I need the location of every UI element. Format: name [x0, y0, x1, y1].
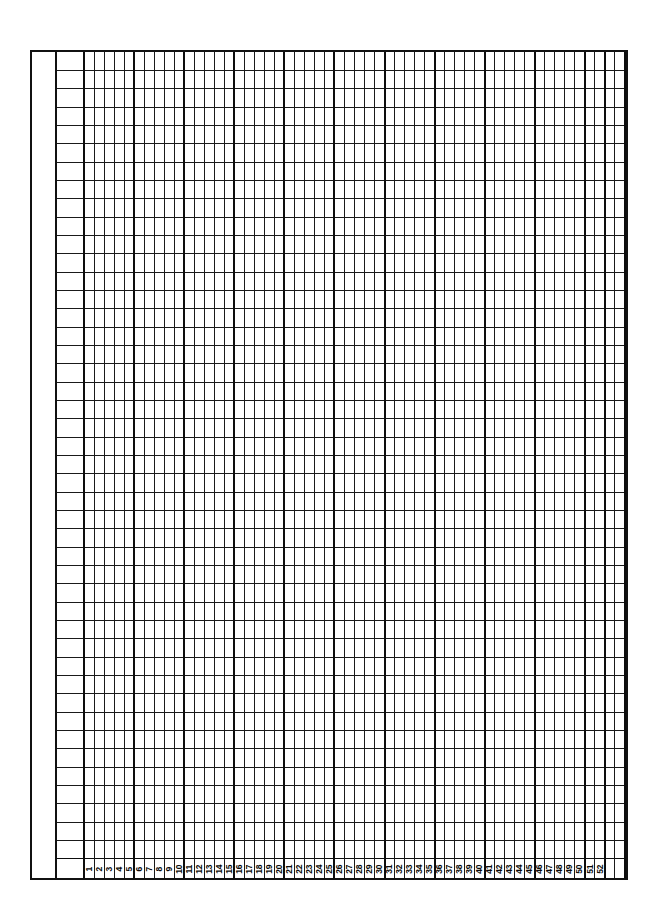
horizontal-rule [57, 418, 626, 419]
column-number-text: 10 [175, 864, 184, 873]
column-number-text: 20 [275, 864, 284, 873]
column-number-text: 4 [115, 867, 124, 871]
column-number-text: 49 [566, 864, 575, 873]
column-number-label: 43 [505, 860, 515, 878]
column-number-text: 47 [546, 864, 555, 873]
horizontal-rule [57, 693, 626, 694]
column-number-label: 47 [545, 860, 555, 878]
vertical-rule [594, 52, 595, 878]
horizontal-rule [57, 620, 626, 621]
column-number-text: 33 [405, 864, 414, 873]
vertical-rule [264, 52, 265, 878]
column-number-text: 32 [395, 864, 404, 873]
horizontal-rule [57, 88, 626, 89]
column-number-label: 18 [254, 860, 264, 878]
column-number-text: 18 [255, 864, 264, 873]
column-number-label: 24 [314, 860, 324, 878]
column-number-label: 35 [425, 860, 435, 878]
column-number-text: 31 [385, 864, 394, 873]
column-number-label: 46 [535, 860, 545, 878]
vertical-rule [164, 52, 165, 878]
horizontal-rule [57, 528, 626, 529]
column-number-label: 12 [194, 860, 204, 878]
column-number-label: 17 [244, 860, 254, 878]
column-number-text: 6 [135, 867, 144, 871]
horizontal-rule [57, 308, 626, 309]
horizontal-rule [57, 675, 626, 676]
column-number-label: 9 [164, 860, 174, 878]
horizontal-rule [57, 363, 626, 364]
column-number-label: 44 [515, 860, 525, 878]
column-number-text: 21 [285, 864, 294, 873]
column-number-label: 29 [365, 860, 375, 878]
vertical-rule [434, 52, 436, 878]
column-number-label: 26 [334, 860, 344, 878]
vertical-rule [104, 52, 105, 878]
horizontal-rule [57, 492, 626, 493]
vertical-rule [414, 52, 415, 878]
vertical-rule [133, 52, 135, 878]
column-number-text: 23 [305, 864, 314, 873]
column-number-text: 36 [435, 864, 444, 873]
horizontal-rule [57, 602, 626, 603]
vertical-rule [624, 52, 626, 878]
column-number-text: 35 [425, 864, 434, 873]
vertical-rule [384, 52, 386, 878]
column-number-text: 44 [516, 864, 525, 873]
column-number-label: 52 [595, 860, 605, 878]
column-number-label: 28 [355, 860, 365, 878]
horizontal-rule [57, 217, 626, 218]
column-number-label: 38 [455, 860, 465, 878]
column-number-text: 13 [205, 864, 214, 873]
vertical-rule [154, 52, 155, 878]
vertical-rule [494, 52, 495, 878]
grid-body [57, 52, 626, 878]
vertical-rule [194, 52, 195, 878]
column-number-label: 25 [324, 860, 334, 878]
column-number-text: 22 [295, 864, 304, 873]
horizontal-rule [57, 437, 626, 438]
vertical-rule [244, 52, 245, 878]
column-number-text: 45 [526, 864, 535, 873]
vertical-rule [514, 52, 515, 878]
column-number-label: 40 [475, 860, 485, 878]
vertical-rule [364, 52, 365, 878]
vertical-rule [324, 52, 325, 878]
column-number-text: 52 [596, 864, 605, 873]
horizontal-rule [57, 198, 626, 199]
vertical-rule [584, 52, 586, 878]
horizontal-rule [57, 290, 626, 291]
column-number-text: 24 [315, 864, 324, 873]
horizontal-rule [57, 583, 626, 584]
vertical-rule [404, 52, 405, 878]
column-number-label: 51 [585, 860, 595, 878]
vertical-rule [454, 52, 455, 878]
horizontal-rule [57, 70, 626, 71]
column-number-label: 7 [144, 860, 154, 878]
column-number-text: 12 [195, 864, 204, 873]
vertical-rule [554, 52, 555, 878]
column-number-text: 43 [506, 864, 515, 873]
column-number-text: 37 [445, 864, 454, 873]
column-number-label: 37 [445, 860, 455, 878]
horizontal-rule [57, 565, 626, 566]
column-number-text: 39 [465, 864, 474, 873]
column-number-text: 25 [325, 864, 334, 873]
vertical-rule [474, 52, 475, 878]
column-number-text: 8 [155, 867, 164, 871]
vertical-rule [464, 52, 465, 878]
vertical-rule [233, 52, 235, 878]
horizontal-rule [57, 712, 626, 713]
horizontal-rule [57, 510, 626, 511]
column-number-label: 31 [385, 860, 395, 878]
column-number-label: 6 [134, 860, 144, 878]
horizontal-rule [57, 107, 626, 108]
horizontal-rule [57, 748, 626, 749]
horizontal-rule [57, 822, 626, 823]
column-number-label: 21 [284, 860, 294, 878]
column-number-label: 41 [485, 860, 495, 878]
vertical-rule [374, 52, 375, 878]
column-number-text: 7 [145, 867, 154, 871]
column-number-label: 23 [304, 860, 314, 878]
column-number-text: 51 [586, 864, 595, 873]
